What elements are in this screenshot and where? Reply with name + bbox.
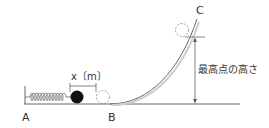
dashed-ball-initial [97,91,110,104]
displacement-label: x〔m〕 [71,72,107,82]
ramp-shadow [112,22,199,105]
height-label: 最高点の高さ [198,65,258,75]
dashed-ball-top [176,24,189,37]
ball [71,91,84,104]
point-b-label: B [108,112,116,123]
point-a-label: A [22,112,30,123]
point-c-label: C [196,5,204,16]
height-arrow-head-bottom [193,99,197,103]
spring [25,93,71,101]
